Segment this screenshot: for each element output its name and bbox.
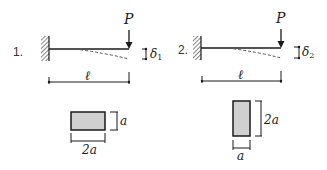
cantilever-2: 2. P δ2 ℓ xyxy=(178,10,314,83)
load-label-1: P xyxy=(123,11,134,27)
load-arrowhead-1 xyxy=(126,42,133,49)
cantilever-comparison-diagram: 1. P δ1 ℓ a 2a xyxy=(0,0,327,170)
diagram-2-number: 2. xyxy=(178,43,188,57)
deflection-dimension-2 xyxy=(294,46,300,59)
deflected-shape-2 xyxy=(228,48,281,58)
length-label-1: ℓ xyxy=(85,68,91,83)
section-rect-1 xyxy=(71,112,105,130)
deflected-shape-1 xyxy=(75,49,129,59)
cantilever-1: 1. P δ1 ℓ xyxy=(13,11,162,84)
fixed-support-2 xyxy=(193,36,201,60)
load-label-2: P xyxy=(275,10,286,26)
deflection-label-1: δ1 xyxy=(150,47,162,62)
cross-section-1: a 2a xyxy=(71,112,127,157)
diagram-1-number: 1. xyxy=(13,45,23,59)
section-2-height-label: 2a xyxy=(263,113,279,127)
section-2-width-label: a xyxy=(237,149,244,163)
section-1-height-label: a xyxy=(120,114,127,128)
section-1-width-label: 2a xyxy=(81,143,97,157)
cross-section-2: 2a a xyxy=(233,101,279,163)
section-rect-2 xyxy=(233,101,250,136)
length-label-2: ℓ xyxy=(238,67,244,82)
fixed-support-1 xyxy=(41,36,49,61)
load-arrowhead-2 xyxy=(278,41,285,48)
deflection-label-2: δ2 xyxy=(302,45,314,60)
deflection-dimension-1 xyxy=(142,48,147,60)
